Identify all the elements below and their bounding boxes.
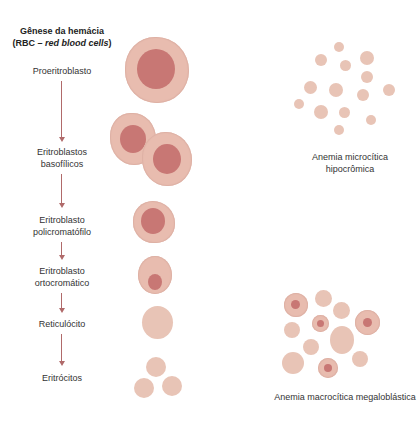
stage-label: Eritroblastos bbox=[0, 146, 124, 158]
microcyte bbox=[314, 105, 328, 119]
caption-line: hipocrômica bbox=[290, 163, 410, 175]
arrow-icon bbox=[61, 174, 62, 204]
orthochromatic-cell bbox=[138, 256, 172, 294]
nucleus bbox=[363, 318, 372, 327]
stage-label: Eritroblasto bbox=[0, 214, 124, 226]
microcyte bbox=[304, 81, 317, 94]
caption-line: Anemia microcítica bbox=[290, 151, 410, 163]
microcyte bbox=[360, 51, 374, 65]
macrocytic-caption: Anemia macrocítica megaloblástica bbox=[270, 391, 420, 403]
megaloblast bbox=[312, 315, 329, 332]
nucleus bbox=[291, 300, 300, 309]
reticulocyte-cell bbox=[142, 306, 173, 339]
stage-label: basofílicos bbox=[0, 158, 124, 170]
stage-eritroblasto-policromatofilo: Eritroblastopolicromatófilo bbox=[0, 214, 124, 238]
macrocyte bbox=[284, 322, 300, 338]
macrocyte bbox=[333, 302, 350, 319]
stage-eritrocitos: Eritrócitos bbox=[0, 372, 124, 384]
microcyte bbox=[329, 83, 343, 97]
title-line-2: (RBC – red blood cells) bbox=[0, 37, 124, 49]
arrow-icon bbox=[61, 334, 62, 362]
microcyte bbox=[315, 54, 327, 66]
microcyte bbox=[334, 42, 344, 52]
erythrocyte-cell bbox=[134, 378, 154, 398]
megaloblast bbox=[355, 310, 380, 335]
microcyte bbox=[340, 60, 351, 71]
microcyte bbox=[366, 115, 376, 125]
macrocyte bbox=[352, 351, 368, 367]
nucleus bbox=[153, 144, 181, 174]
microcyte bbox=[357, 89, 369, 101]
microcyte bbox=[383, 84, 395, 96]
arrow-icon bbox=[61, 293, 62, 309]
microcyte bbox=[334, 125, 344, 135]
stage-eritroblastos-basofilicos: Eritroblastosbasofílicos bbox=[0, 146, 124, 170]
macrocyte bbox=[330, 326, 354, 354]
nucleus bbox=[324, 364, 332, 372]
arrow-icon bbox=[61, 81, 62, 138]
stage-label: Reticulócito bbox=[0, 318, 124, 330]
megaloblast bbox=[284, 293, 308, 317]
title-suffix: ) bbox=[109, 38, 112, 48]
erythrocyte-cell bbox=[146, 357, 166, 377]
title-line-1: Gênese da hemácia bbox=[0, 25, 124, 37]
caption-line: Anemia macrocítica megaloblástica bbox=[270, 391, 420, 403]
microcyte bbox=[294, 99, 304, 109]
nucleus bbox=[148, 274, 162, 290]
basophilic-cell bbox=[142, 132, 192, 186]
stage-label: ortocromático bbox=[0, 277, 124, 289]
arrow-icon bbox=[61, 242, 62, 256]
microcyte bbox=[339, 107, 350, 118]
macrocyte bbox=[282, 352, 304, 374]
microcytic-caption: Anemia microcítica hipocrômica bbox=[290, 151, 410, 175]
stage-reticulocito: Reticulócito bbox=[0, 318, 124, 330]
macrocyte bbox=[303, 339, 319, 355]
stage-eritroblasto-ortocromatico: Eritroblastoortocromático bbox=[0, 265, 124, 289]
nucleus bbox=[141, 208, 165, 234]
stage-label: Proeritroblasto bbox=[0, 65, 124, 77]
microcyte bbox=[361, 71, 373, 83]
stage-label: Eritroblasto bbox=[0, 265, 124, 277]
diagram-title: Gênese da hemácia (RBC – red blood cells… bbox=[0, 25, 124, 49]
nucleus bbox=[137, 49, 175, 89]
stage-proeritroblasto: Proeritroblasto bbox=[0, 65, 124, 77]
erythrocyte-cell bbox=[162, 376, 182, 396]
stage-label: Eritrócitos bbox=[0, 372, 124, 384]
nucleus bbox=[317, 320, 324, 327]
stage-label: policromatófilo bbox=[0, 226, 124, 238]
title-italic: red blood cells bbox=[45, 38, 109, 48]
megaloblast bbox=[318, 358, 338, 378]
title-prefix: (RBC – bbox=[12, 38, 45, 48]
macrocyte bbox=[315, 290, 332, 307]
proerythroblast-cell bbox=[125, 37, 189, 103]
polychromatophilic-cell bbox=[133, 201, 175, 243]
